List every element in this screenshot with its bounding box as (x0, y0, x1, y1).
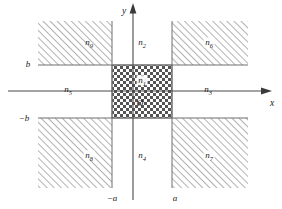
region-label-n3-sub: 3 (209, 89, 212, 96)
region-label-n2-sub: 2 (143, 42, 146, 49)
region-label-n7: n7 (204, 151, 215, 162)
y-axis-arrowhead (130, 3, 137, 14)
region-label-n6-sub: 6 (210, 42, 213, 49)
figure-canvas: n9 n2 n6 n5 n1 n3 n8 n4 n7 O x y b −b (0, 0, 282, 209)
region-label-n8-sub: 8 (90, 155, 93, 162)
region-label-n5-sub: 5 (69, 89, 72, 96)
region-fill-n8 (38, 118, 112, 188)
tick-label-b-negative: −b (19, 114, 30, 123)
region-fill-n9 (38, 21, 112, 65)
region-label-n3: n3 (204, 85, 212, 96)
tick-label-b-positive: b (26, 60, 31, 69)
origin-label: O (137, 99, 144, 108)
region-label-n9-sub: 9 (90, 42, 93, 49)
region-label-n2: n2 (138, 38, 146, 49)
x-axis-arrowhead (261, 88, 272, 95)
region-label-n9: n9 (85, 38, 93, 49)
tick-label-a-positive: a (173, 194, 178, 203)
y-axis-label: y (122, 7, 126, 17)
region-label-n4-sub: 4 (143, 155, 146, 162)
region-label-n4: n4 (138, 151, 146, 162)
region-label-n1-sub: 1 (143, 80, 146, 87)
tick-label-a-negative: −a (107, 194, 118, 203)
region-label-n6: n6 (204, 38, 215, 49)
x-axis-label: x (270, 99, 274, 109)
region-label-n5: n5 (64, 85, 72, 96)
region-label-n8: n8 (84, 151, 95, 162)
region-label-n7-sub: 7 (210, 155, 213, 162)
region-label-n1: n1 (137, 76, 148, 87)
